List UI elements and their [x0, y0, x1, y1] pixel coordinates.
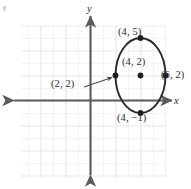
- point-label-right: (6, 2): [161, 70, 184, 81]
- point-label-bottom: (4, −1): [117, 113, 146, 124]
- y-axis-label: y: [87, 4, 92, 15]
- point-label-center: (4, 2): [122, 57, 145, 68]
- coordinate-plane-svg: [0, 0, 191, 189]
- point-left-vertex: [113, 73, 119, 79]
- point-label-top: (4, 5): [118, 27, 141, 38]
- point-label-left: (2, 2): [51, 79, 74, 90]
- x-axis-label: x: [174, 96, 179, 107]
- point-center: [138, 73, 144, 79]
- graph-figure: (4, 5) (4, 2) (6, 2) (2, 2) (4, −1) x y: [0, 0, 191, 189]
